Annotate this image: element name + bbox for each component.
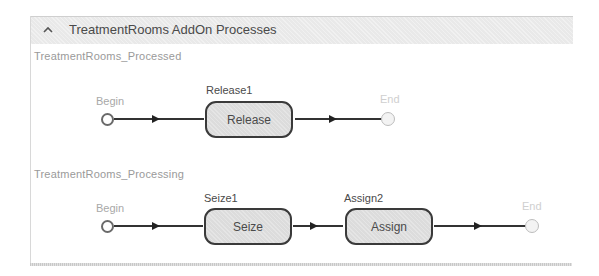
step-name-label: Seize1	[204, 192, 238, 204]
step-type-label: Release	[227, 113, 271, 127]
panel-header[interactable]: TreatmentRooms AddOn Processes	[31, 16, 573, 44]
end-label: End	[380, 93, 400, 105]
end-node-icon[interactable]	[525, 219, 539, 233]
step-name-label: Release1	[206, 84, 252, 96]
step-release1[interactable]: Release	[205, 101, 293, 138]
end-node-icon[interactable]	[381, 112, 395, 126]
chevron-up-icon[interactable]	[41, 23, 55, 37]
step-name-label: Assign2	[344, 192, 383, 204]
step-seize1[interactable]: Seize	[204, 208, 292, 245]
begin-node-icon[interactable]	[101, 113, 114, 126]
begin-label: Begin	[96, 202, 124, 214]
panel-title: TreatmentRooms AddOn Processes	[69, 22, 277, 37]
step-assign2[interactable]: Assign	[345, 208, 433, 245]
begin-label: Begin	[96, 95, 124, 107]
process-name[interactable]: TreatmentRooms_Processed	[34, 50, 181, 62]
begin-node-icon[interactable]	[101, 220, 114, 233]
end-label: End	[522, 200, 542, 212]
step-type-label: Assign	[371, 220, 407, 234]
step-type-label: Seize	[233, 220, 263, 234]
process-name[interactable]: TreatmentRooms_Processing	[34, 168, 184, 180]
panel-bottom-border	[30, 263, 572, 266]
